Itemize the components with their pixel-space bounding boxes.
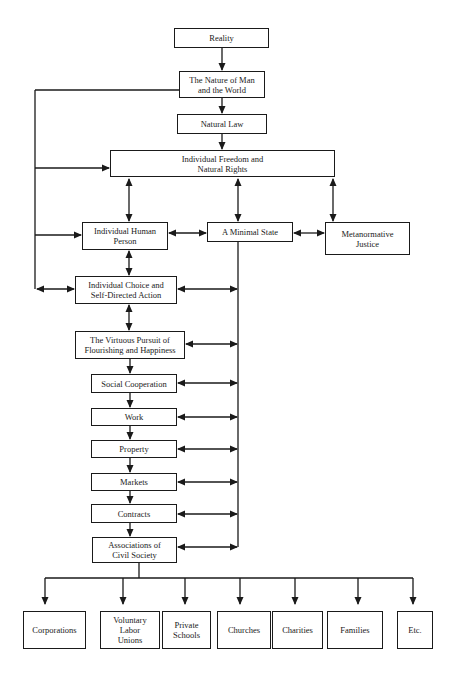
flowchart-diagram: Reality The Nature of Man and the World … bbox=[0, 0, 456, 690]
node-virtuous-pursuit-label: The Virtuous Pursuit of Flourishing and … bbox=[84, 335, 175, 355]
node-markets: Markets bbox=[91, 473, 177, 491]
node-individual-human-person: Individual Human Person bbox=[82, 222, 168, 250]
node-individual-freedom: Individual Freedom and Natural Rights bbox=[110, 150, 335, 177]
node-corporations-label: Corporations bbox=[32, 625, 76, 635]
node-corporations: Corporations bbox=[23, 611, 86, 649]
node-churches: Churches bbox=[217, 611, 271, 649]
node-individual-choice-label: Individual Choice and Self-Directed Acti… bbox=[88, 280, 164, 300]
node-individual-choice: Individual Choice and Self-Directed Acti… bbox=[75, 276, 177, 304]
node-families-label: Families bbox=[340, 625, 369, 635]
node-minimal-state-label: A Minimal State bbox=[222, 227, 278, 237]
node-virtuous-pursuit: The Virtuous Pursuit of Flourishing and … bbox=[75, 331, 185, 359]
node-etc: Etc. bbox=[397, 611, 433, 649]
node-natural-law: Natural Law bbox=[177, 114, 267, 134]
node-work-label: Work bbox=[125, 412, 144, 422]
node-individual-freedom-label: Individual Freedom and Natural Rights bbox=[182, 154, 264, 174]
node-voluntary-labor-unions-label: Voluntary Labor Unions bbox=[113, 615, 146, 645]
node-churches-label: Churches bbox=[228, 625, 260, 635]
node-metanormative-justice: Metanormative Justice bbox=[325, 222, 410, 255]
node-social-cooperation-label: Social Cooperation bbox=[101, 379, 166, 389]
node-charities: Charities bbox=[272, 611, 323, 649]
node-property: Property bbox=[91, 440, 177, 458]
node-contracts: Contracts bbox=[91, 504, 177, 523]
node-markets-label: Markets bbox=[120, 477, 148, 487]
node-families: Families bbox=[327, 611, 383, 649]
node-voluntary-labor-unions: Voluntary Labor Unions bbox=[100, 611, 160, 649]
node-natural-law-label: Natural Law bbox=[201, 119, 244, 129]
node-etc-label: Etc. bbox=[408, 625, 421, 635]
node-private-schools-label: Private Schools bbox=[173, 620, 200, 640]
node-reality-label: Reality bbox=[209, 33, 234, 43]
node-reality: Reality bbox=[174, 28, 269, 48]
node-social-cooperation: Social Cooperation bbox=[91, 374, 177, 393]
node-private-schools: Private Schools bbox=[162, 611, 211, 649]
node-associations-civil-society: Associations of Civil Society bbox=[92, 537, 177, 563]
node-charities-label: Charities bbox=[282, 625, 313, 635]
node-work: Work bbox=[91, 408, 177, 426]
node-property-label: Property bbox=[119, 444, 148, 454]
node-associations-civil-society-label: Associations of Civil Society bbox=[108, 540, 161, 560]
node-contracts-label: Contracts bbox=[118, 509, 151, 519]
node-individual-human-person-label: Individual Human Person bbox=[94, 226, 156, 246]
node-nature-of-man-label: The Nature of Man and the World bbox=[189, 75, 254, 95]
node-minimal-state: A Minimal State bbox=[207, 222, 293, 242]
node-nature-of-man: The Nature of Man and the World bbox=[179, 71, 265, 98]
connector-lines bbox=[0, 0, 456, 690]
node-metanormative-justice-label: Metanormative Justice bbox=[342, 229, 394, 249]
